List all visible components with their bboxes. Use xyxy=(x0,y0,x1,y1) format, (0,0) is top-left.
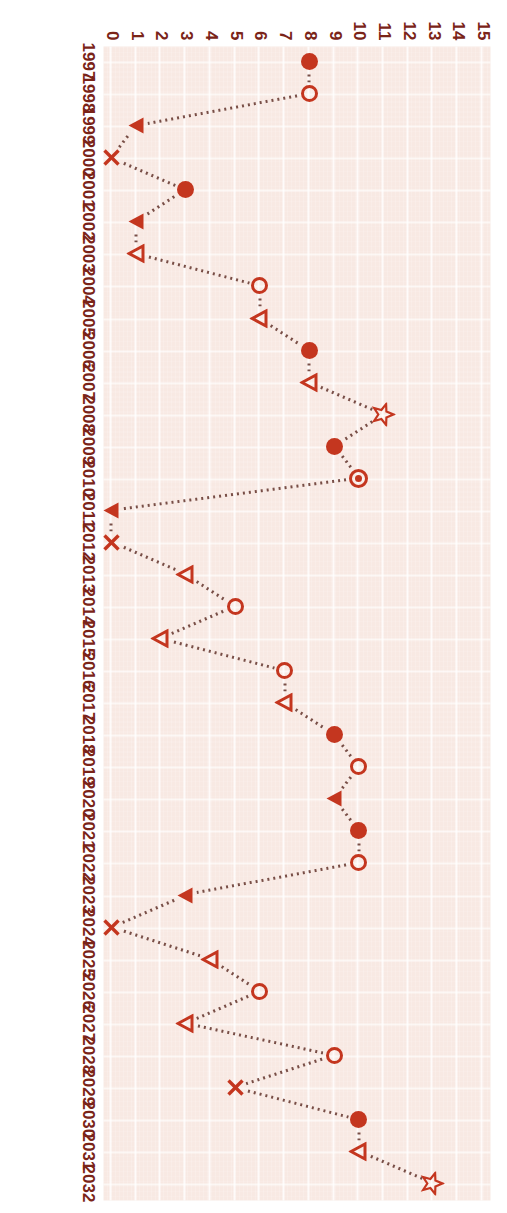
open-left-triangle-marker xyxy=(274,692,294,712)
filled-circle-marker xyxy=(300,341,317,358)
value-tick-label: 0 xyxy=(101,31,121,40)
connector-segment xyxy=(110,521,113,531)
x-cross-marker xyxy=(101,147,121,167)
open-circle-marker xyxy=(350,758,367,775)
filled-left-triangle-marker xyxy=(324,788,344,808)
value-tick-label: 2 xyxy=(150,31,170,40)
gridline-horizontal xyxy=(406,46,408,1200)
connector-segment xyxy=(146,94,298,125)
filled-circle-marker xyxy=(325,726,342,743)
filled-circle-marker xyxy=(350,822,367,839)
connector-segment xyxy=(121,545,176,571)
open-left-triangle-marker xyxy=(299,372,319,392)
filled-circle-marker xyxy=(300,53,317,70)
open-left-triangle-marker xyxy=(126,243,146,263)
connector-segment xyxy=(357,1130,360,1140)
connector-segment xyxy=(307,361,310,371)
value-tick-label: 7 xyxy=(274,31,294,40)
gridline-horizontal xyxy=(455,46,457,1200)
connector-segment xyxy=(318,385,373,411)
open-circle-marker xyxy=(251,982,268,999)
open-circle-marker xyxy=(325,1046,342,1063)
value-tick-label: 15 xyxy=(472,21,492,40)
gridline-horizontal xyxy=(307,46,309,1200)
gridline-horizontal xyxy=(233,46,235,1200)
connector-segment xyxy=(195,994,250,1020)
connector-segment xyxy=(283,681,286,691)
filled-left-triangle-marker xyxy=(101,500,121,520)
open-circle-marker xyxy=(226,598,243,615)
x-cross-marker xyxy=(225,1077,245,1097)
open-left-triangle-marker xyxy=(348,1141,368,1161)
open-left-triangle-marker xyxy=(200,949,220,969)
open-circle-marker xyxy=(276,662,293,679)
gridline-horizontal xyxy=(109,46,111,1200)
open-left-triangle-marker xyxy=(175,564,195,584)
value-tick-label: 1 xyxy=(126,31,146,40)
gridline-horizontal xyxy=(159,46,161,1200)
connector-segment xyxy=(121,897,176,923)
connector-segment xyxy=(339,742,353,758)
gridline-horizontal xyxy=(431,46,433,1200)
connector-segment xyxy=(357,841,360,851)
gridline-horizontal xyxy=(332,46,334,1200)
connector-segment xyxy=(170,609,225,635)
connector-segment xyxy=(307,72,310,82)
filled-circle-marker xyxy=(177,181,194,198)
gridline-horizontal xyxy=(356,46,358,1200)
value-tick-label: 3 xyxy=(175,31,195,40)
target-circle-marker xyxy=(349,468,368,487)
gridline-horizontal xyxy=(381,46,383,1200)
gridline-horizontal xyxy=(257,46,259,1200)
filled-circle-marker xyxy=(350,1110,367,1127)
open-star-marker xyxy=(371,402,395,426)
chart-screenshot: 0123456789101112131415 19971998199920002… xyxy=(0,0,507,1213)
open-circle-marker xyxy=(350,854,367,871)
x-cross-marker xyxy=(101,532,121,552)
filled-left-triangle-marker xyxy=(126,115,146,135)
open-left-triangle-marker xyxy=(175,1013,195,1033)
year-tick-label: 2032 xyxy=(77,1164,97,1202)
value-tick-label: 5 xyxy=(225,31,245,40)
value-tick-label: 9 xyxy=(324,31,344,40)
connector-segment xyxy=(134,232,137,242)
value-tick-label: 10 xyxy=(348,21,368,40)
value-tick-label: 12 xyxy=(398,21,418,40)
value-tick-label: 14 xyxy=(447,21,467,40)
open-star-marker xyxy=(421,1171,445,1195)
value-tick-label: 13 xyxy=(423,21,443,40)
open-circle-marker xyxy=(251,277,268,294)
open-circle-marker xyxy=(300,85,317,102)
x-cross-marker xyxy=(101,917,121,937)
value-tick-label: 8 xyxy=(299,31,319,40)
connector-segment xyxy=(339,453,353,469)
filled-left-triangle-marker xyxy=(126,211,146,231)
connector-segment xyxy=(368,1154,423,1180)
filled-left-triangle-marker xyxy=(175,885,195,905)
filled-circle-marker xyxy=(325,437,342,454)
plot-area xyxy=(103,46,490,1200)
rotated-chart-container: 0123456789101112131415 19971998199920002… xyxy=(0,0,507,1213)
value-tick-label: 6 xyxy=(249,31,269,40)
value-tick-label: 4 xyxy=(200,31,220,40)
value-tick-label: 11 xyxy=(373,22,393,40)
gridline-horizontal xyxy=(480,46,482,1200)
connector-segment xyxy=(196,863,348,894)
connector-segment xyxy=(258,296,261,306)
gridline-horizontal xyxy=(282,46,284,1200)
connector-segment xyxy=(121,160,176,186)
open-left-triangle-marker xyxy=(249,308,269,328)
open-left-triangle-marker xyxy=(151,628,171,648)
